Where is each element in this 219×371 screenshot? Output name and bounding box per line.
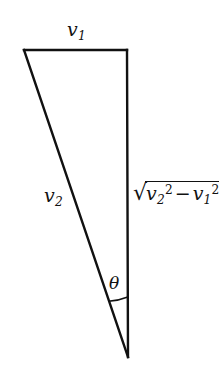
radicand: v22−v12 — [145, 181, 219, 207]
radicand-second-exponent: 2 — [211, 183, 219, 197]
label-v1-variable: v — [67, 18, 78, 40]
edge-hypotenuse — [24, 50, 128, 357]
radicand-second-variable: v — [193, 182, 204, 204]
radicand-first-variable: v — [146, 182, 157, 204]
triangle-diagram: v1 v2 θ √v22−v12 — [0, 0, 219, 371]
label-v2-subscript: 2 — [55, 195, 63, 209]
label-v1: v1 — [67, 20, 86, 42]
radicand-first-subscript: 2 — [157, 193, 165, 207]
edge-right-vertical — [127, 50, 128, 357]
label-v2-variable: v — [44, 184, 55, 206]
radical-sign: √ — [133, 182, 147, 204]
radicand-operator: − — [173, 182, 193, 204]
label-v2: v2 — [44, 186, 63, 208]
angle-arc-theta — [109, 297, 128, 301]
label-radical-expression: √v22−v12 — [133, 181, 219, 207]
radicand-first-exponent: 2 — [165, 183, 173, 197]
label-v1-subscript: 1 — [78, 29, 86, 43]
label-theta: θ — [109, 275, 119, 292]
